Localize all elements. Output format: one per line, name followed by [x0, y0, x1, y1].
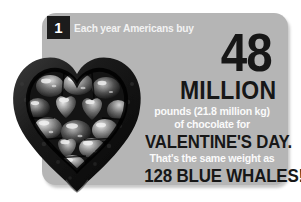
comparison-intro: That's the same weight as — [146, 152, 278, 165]
detail-line-2: of chocolate for — [146, 118, 278, 131]
fact-text-column: 48 MILLION pounds (21.8 million kg) of c… — [140, 16, 284, 186]
big-number: 48 — [149, 27, 276, 77]
infographic-card: 1 Each year Americans buy — [0, 0, 301, 202]
occasion-label: VALENTINE'S DAY. — [145, 133, 279, 152]
detail-line-1: pounds (21.8 million kg) — [146, 105, 278, 118]
unit-label: MILLION — [146, 78, 278, 102]
comparison-value: 128 BLUE WHALES! — [144, 167, 279, 186]
fact-number-badge: 1 — [47, 16, 70, 39]
lede-text: Each year Americans buy — [74, 22, 186, 34]
